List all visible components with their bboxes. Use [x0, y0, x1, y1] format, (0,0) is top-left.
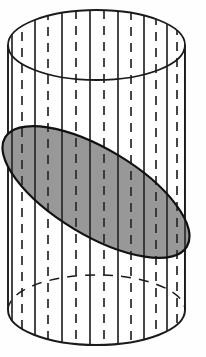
cylinder-figure: Cylinder cut by an oblique plane forming…: [0, 0, 206, 357]
cylinder-diagram-svg: [0, 0, 206, 357]
